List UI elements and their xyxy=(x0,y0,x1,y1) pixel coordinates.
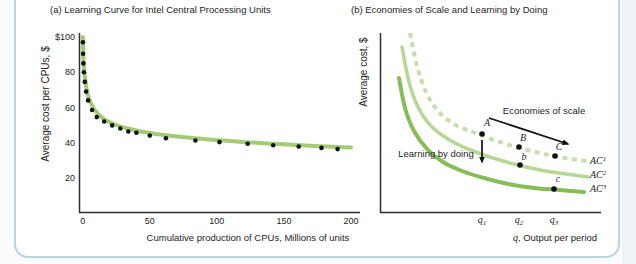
ac3-curve-label: AC3 xyxy=(589,183,607,195)
y-tick-label: 40 xyxy=(65,138,75,148)
y-tick-label: $100 xyxy=(55,32,75,42)
data-point xyxy=(164,136,169,141)
point-A xyxy=(479,131,485,137)
ac2-curve-label: AC2 xyxy=(589,169,607,181)
data-point xyxy=(245,142,250,147)
x-tick-label: 150 xyxy=(276,216,291,226)
data-point xyxy=(271,143,276,148)
point-label-A: A xyxy=(483,117,491,128)
figure-svg: $10080604020050100150200 AC1AC2AC3ABCbcq… xyxy=(0,0,636,264)
data-point xyxy=(193,138,198,143)
panel-b-plot: AC1AC2AC3ABCbcq1q2q3 xyxy=(380,33,607,227)
data-point xyxy=(126,129,131,134)
economies-of-scale-label: Economies of scale xyxy=(503,105,585,116)
panel-b-title: (b) Economies of Scale and Learning by D… xyxy=(351,4,547,15)
data-point xyxy=(110,123,115,128)
data-point xyxy=(319,146,324,151)
figure-canvas: $10080604020050100150200 AC1AC2AC3ABCbcq… xyxy=(0,0,636,264)
data-point xyxy=(296,144,301,149)
data-point xyxy=(148,133,153,138)
panel-a-y-axis-label: Average cost per CPUs, $ xyxy=(40,46,51,161)
x-tick-label: 0 xyxy=(80,216,85,226)
data-point xyxy=(81,51,86,56)
panel-a-title: (a) Learning Curve for Intel Central Pro… xyxy=(50,4,271,15)
data-point xyxy=(90,108,95,113)
data-point xyxy=(84,89,89,94)
point-B xyxy=(516,144,522,150)
data-point xyxy=(335,147,340,152)
learning-by-doing-label: Learning by doing xyxy=(398,148,474,159)
point-C xyxy=(552,153,558,159)
data-point xyxy=(83,80,88,85)
ac1-curve-label: AC1 xyxy=(589,155,606,167)
point-label-C: C xyxy=(556,141,563,152)
data-point xyxy=(95,115,100,120)
panel-b-y-axis-label: Average cost, $ xyxy=(358,37,369,106)
point-label-B: B xyxy=(520,132,526,143)
x-tick-label: 50 xyxy=(145,216,155,226)
data-point xyxy=(118,126,123,131)
y-tick-label: 80 xyxy=(65,67,75,77)
y-tick-label: 60 xyxy=(65,103,75,113)
x-axis-label-text: , Output per period xyxy=(518,232,597,243)
data-point xyxy=(217,140,222,145)
data-point xyxy=(81,61,86,66)
data-point xyxy=(86,98,91,103)
point-label-c: c xyxy=(556,173,561,184)
data-point xyxy=(102,119,107,124)
x-tick-label-q1: q1 xyxy=(478,214,487,227)
panel-a-plot: $10080604020050100150200 xyxy=(55,32,360,226)
data-point xyxy=(81,40,86,45)
panel-a-x-axis-label: Cumulative production of CPUs, Millions … xyxy=(147,232,350,243)
point-label-b: b xyxy=(522,151,527,162)
point-b xyxy=(517,162,523,168)
x-tick-label: 200 xyxy=(343,216,358,226)
panel-b-x-axis-label: q, Output per period xyxy=(513,232,597,243)
x-tick-label-q3: q3 xyxy=(550,214,559,227)
x-tick-label: 100 xyxy=(209,216,224,226)
data-point xyxy=(134,130,139,135)
point-c xyxy=(551,186,557,192)
x-tick-label-q2: q2 xyxy=(515,214,524,227)
data-point xyxy=(82,70,87,75)
y-tick-label: 20 xyxy=(65,173,75,183)
learning-curve xyxy=(83,37,351,148)
